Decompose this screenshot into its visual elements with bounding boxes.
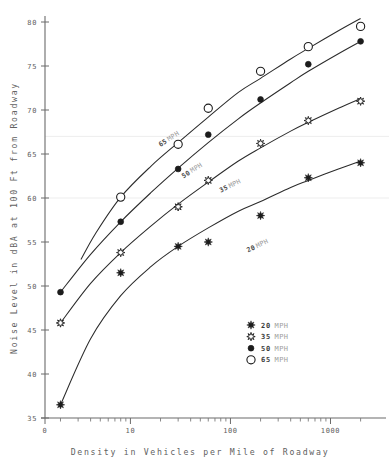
y-tick-label: 65 bbox=[27, 151, 37, 159]
x-tick-label: 1000 bbox=[321, 427, 340, 435]
legend-entry-50: 50MPH bbox=[248, 345, 288, 353]
point-20-600 bbox=[304, 174, 312, 182]
y-tick-label: 45 bbox=[27, 327, 37, 335]
y-tick-label: 50 bbox=[27, 283, 37, 291]
point-50-60 bbox=[205, 132, 211, 138]
curve-paths bbox=[61, 18, 361, 404]
point-35-30 bbox=[174, 203, 182, 211]
series-curve-35 bbox=[61, 99, 361, 323]
axis-ticks bbox=[41, 22, 361, 424]
x-tick-label: 100 bbox=[223, 427, 237, 435]
y-tick-label: 60 bbox=[27, 195, 37, 203]
point-50-2000 bbox=[358, 38, 364, 44]
noise-level-density-chart: 354045505560657075800101001000 65MPH50MP… bbox=[0, 0, 389, 464]
point-50-30 bbox=[175, 166, 181, 172]
legend-label-20: 20MPH bbox=[261, 322, 289, 330]
point-20-30 bbox=[174, 242, 182, 250]
point-35-200 bbox=[256, 139, 264, 147]
point-20-60 bbox=[204, 238, 212, 246]
chart-svg: 354045505560657075800101001000 65MPH50MP… bbox=[0, 0, 389, 464]
x-axis-title: Density in Vehicles per Mile of Roadway bbox=[71, 447, 330, 457]
legend-marker-filled-circle bbox=[248, 345, 254, 351]
series-curve-50 bbox=[61, 41, 361, 292]
x-tick-label: 10 bbox=[126, 427, 136, 435]
point-65-600 bbox=[304, 43, 312, 51]
legend-marker-star bbox=[247, 321, 255, 329]
point-50-600 bbox=[305, 61, 311, 67]
point-50-200 bbox=[258, 97, 264, 103]
legend-label-35: 35MPH bbox=[261, 333, 289, 341]
point-35-2000 bbox=[356, 97, 364, 105]
point-65-200 bbox=[256, 67, 264, 75]
legend: 20MPH35MPH50MPH65MPH bbox=[247, 321, 289, 365]
y-tick-label: 40 bbox=[27, 371, 37, 379]
y-tick-label: 75 bbox=[27, 63, 37, 71]
legend-label-50: 50MPH bbox=[261, 345, 289, 353]
point-50-8 bbox=[118, 219, 124, 225]
point-65-8 bbox=[117, 193, 125, 201]
point-35-8 bbox=[117, 248, 125, 256]
y-tick-label: 80 bbox=[27, 19, 37, 27]
inline-series-labels: 65MPH50MPH35MPH20MPH bbox=[157, 129, 269, 254]
legend-marker-open-circle bbox=[247, 356, 255, 364]
y-tick-label: 55 bbox=[27, 239, 37, 247]
y-axis-title: Noise Level in dBA at 100 Ft from Roadwa… bbox=[9, 82, 19, 354]
inline-label-35: 35MPH bbox=[218, 177, 242, 194]
x-tick-label: 0 bbox=[43, 427, 48, 435]
legend-entry-65: 65MPH bbox=[247, 356, 289, 365]
point-20-2000 bbox=[356, 159, 364, 167]
point-35-2 bbox=[56, 319, 64, 327]
point-20-200 bbox=[256, 211, 264, 219]
point-20-2 bbox=[56, 401, 64, 409]
point-65-30 bbox=[174, 140, 182, 148]
inline-label-20: 20MPH bbox=[245, 237, 269, 254]
point-65-60 bbox=[204, 104, 212, 112]
y-tick-label: 35 bbox=[27, 415, 37, 423]
point-35-60 bbox=[204, 176, 212, 184]
legend-entry-35: 35MPH bbox=[247, 332, 289, 341]
axis-lines bbox=[41, 16, 386, 418]
y-tick-label: 70 bbox=[27, 107, 37, 115]
inline-label-50: 50MPH bbox=[180, 161, 204, 180]
point-20-8 bbox=[117, 269, 125, 277]
point-35-600 bbox=[304, 116, 312, 124]
data-points bbox=[56, 22, 365, 409]
legend-label-65: 65MPH bbox=[261, 356, 289, 364]
legend-marker-open-star bbox=[247, 332, 255, 340]
legend-entry-20: 20MPH bbox=[247, 321, 289, 330]
gridlines bbox=[45, 136, 389, 198]
point-65-2000 bbox=[357, 22, 365, 30]
point-50-2 bbox=[58, 289, 64, 295]
